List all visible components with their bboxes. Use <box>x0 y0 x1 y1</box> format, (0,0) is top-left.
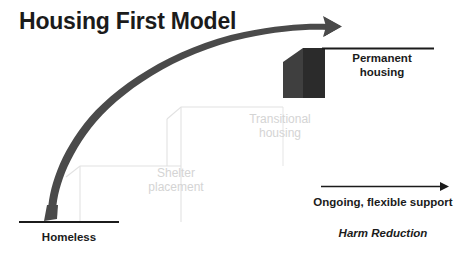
label-shelter-placement: Shelter placement <box>124 166 228 194</box>
ongoing-support-arrow <box>321 182 449 191</box>
permanent-housing-block <box>283 48 325 98</box>
label-harm-reduction: Harm Reduction <box>303 227 463 241</box>
label-transitional-housing: Transitional housing <box>228 112 332 140</box>
curve-arrow-tail <box>44 205 58 221</box>
label-permanent-housing: Permanent housing <box>330 52 434 79</box>
block-front-face <box>303 48 325 98</box>
page-title: Housing First Model <box>19 8 236 35</box>
housing-first-diagram: Housing First Model Permanent housing Tr… <box>0 0 468 259</box>
label-homeless: Homeless <box>19 231 119 245</box>
support-arrowhead <box>440 182 449 191</box>
block-side-face <box>283 48 303 98</box>
label-ongoing-support: Ongoing, flexible support <box>303 196 463 210</box>
